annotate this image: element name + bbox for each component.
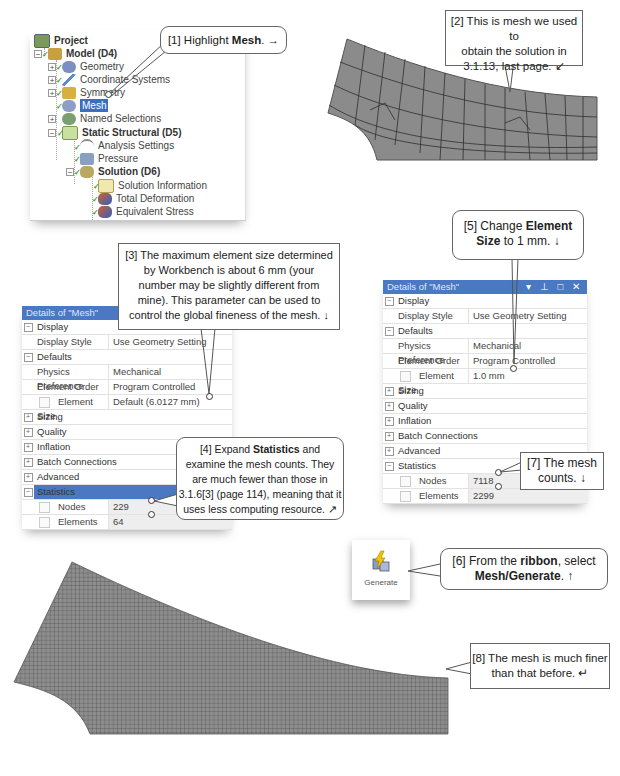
row-display-style[interactable]: Display StyleUse Geometry Setting [383,309,587,324]
callout-1: [1] Highlight Mesh. → [160,26,287,54]
solution-icon: ✓ [80,166,94,178]
section-batch-connections[interactable]: +Batch Connections [383,429,587,444]
section-inflation[interactable]: +Inflation [383,414,587,429]
expand-toggle[interactable]: + [48,63,56,71]
tree-item-project[interactable]: Project [34,34,88,47]
row-element-order[interactable]: Element OrderProgram Controlled [383,354,587,369]
mesh-icon: ✓ [62,100,76,112]
fine-mesh-image [12,560,452,735]
expand-toggle[interactable]: + [48,89,56,97]
callout-3: [3] The maximum element size determined … [118,243,340,330]
tree-item-equivalent-stress[interactable]: ✓ Equivalent Stress [98,205,194,218]
section-sizing[interactable]: +Sizing [383,384,587,399]
collapse-toggle[interactable]: − [385,327,394,336]
collapse-toggle[interactable]: − [24,488,33,497]
row-element-size[interactable]: Element Size1.0 mm [383,369,587,384]
section-sizing[interactable]: +Sizing [22,410,232,425]
tree-item-named-selections[interactable]: + Named Selections [48,112,161,125]
named-selections-icon [62,113,76,125]
callout-1-dot [105,91,112,98]
details-title-bar: Details of "Mesh" ▾ ⊥ □ ✕ [383,280,587,294]
expand-toggle[interactable]: + [385,402,394,411]
callout-3-pointer [195,328,225,400]
callout-5-dot [510,365,517,372]
tree-item-solution[interactable]: − ✓ Solution (D6) [66,165,160,178]
parameter-checkbox[interactable] [400,371,411,382]
tree-item-analysis-settings[interactable]: ✓ Analysis Settings [80,139,174,152]
callout-5-pointer [510,258,522,368]
collapse-toggle[interactable]: − [66,168,74,176]
total-deformation-icon: ✓ [98,193,112,205]
expand-toggle[interactable]: + [24,443,33,452]
elements-value: 2299 [469,489,587,503]
tree-item-mesh[interactable]: ✓ Mesh [62,99,108,112]
expand-toggle[interactable]: + [385,447,394,456]
expand-toggle[interactable]: + [385,432,394,441]
parameter-checkbox[interactable] [400,491,411,502]
row-physics-preference[interactable]: Physics PreferenceMechanical [383,339,587,354]
static-structural-icon: ✓ [62,126,78,140]
callout-8: [8] The mesh is much finer than that bef… [470,643,610,689]
equivalent-stress-icon: ✓ [98,206,112,218]
expand-toggle[interactable]: + [24,458,33,467]
collapse-toggle[interactable]: − [24,353,33,362]
collapse-toggle[interactable]: − [385,297,394,306]
callout-5: [5] Change Element Size to 1 mm. ↓ [452,210,584,260]
expand-toggle[interactable]: + [48,76,56,84]
callout-4-dot-elements [148,511,155,518]
tree-item-pressure[interactable]: ✓ Pressure [80,152,138,165]
window-buttons[interactable]: ▾ ⊥ □ ✕ [526,280,587,294]
collapse-toggle[interactable]: − [34,50,42,58]
expand-toggle[interactable]: + [24,428,33,437]
section-defaults[interactable]: −Defaults [383,324,587,339]
project-icon [34,34,50,48]
expand-toggle[interactable]: + [48,115,56,123]
parameter-checkbox[interactable] [39,517,50,528]
element-size-input[interactable]: 1.0 mm [469,369,587,383]
model-icon: ✓ [48,48,62,60]
expand-toggle[interactable]: + [24,413,33,422]
collapse-toggle[interactable]: − [48,129,56,137]
callout-3-dot [206,393,213,400]
tree-item-solution-information[interactable]: ✓ Solution Information [98,179,207,192]
section-quality[interactable]: +Quality [383,399,587,414]
geometry-icon: ✓ [62,61,76,73]
collapse-toggle[interactable]: − [385,462,394,471]
tree-item-static-structural[interactable]: − ✓ Static Structural (D5) [48,126,181,139]
callout-6: [6] From the ribbon, select Mesh/Generat… [440,548,608,590]
collapse-toggle[interactable]: − [24,323,33,332]
callout-7: [7] The mesh counts. ↓ [520,452,604,490]
analysis-settings-icon: ✓ [80,139,94,153]
parameter-checkbox[interactable] [39,502,50,513]
tree-item-total-deformation[interactable]: ✓ Total Deformation [98,192,194,205]
parameter-checkbox[interactable] [39,397,50,408]
pressure-icon: ✓ [80,153,94,165]
callout-2: [2] This is mesh we used to obtain the s… [445,10,583,66]
expand-toggle[interactable]: + [385,387,394,396]
solution-information-icon: ✓ [98,179,114,193]
expand-toggle[interactable]: + [24,473,33,482]
section-display[interactable]: −Display [383,294,587,309]
coordinate-systems-icon: ✓ [62,74,76,86]
expand-toggle[interactable]: + [385,417,394,426]
parameter-checkbox[interactable] [400,476,411,487]
symmetry-icon: ✓ [62,87,76,99]
row-elements: Elements2299 [383,489,587,504]
callout-7-dot-elements [495,483,502,490]
callout-4: [4] Expand Statistics and examine the me… [176,437,344,520]
